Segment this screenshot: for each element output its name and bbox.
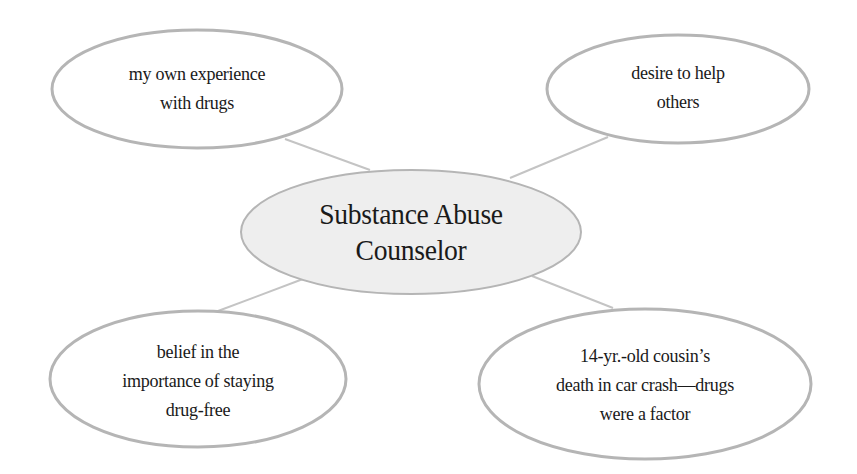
node-text-line: others: [657, 87, 699, 116]
node-text-line: desire to help: [631, 58, 724, 87]
node-text-line: belief in the: [157, 337, 240, 366]
concept-web-diagram: Substance Abuse Counselor my own experie…: [0, 0, 857, 474]
node-text-line: importance of staying: [122, 366, 273, 395]
node-bottom-left: belief in the importance of staying drug…: [122, 337, 273, 424]
node-text-line: 14-yr.-old cousin’s: [580, 341, 710, 370]
node-text-line: death in car crash—drugs: [556, 370, 734, 399]
node-text-line: were a factor: [600, 399, 690, 428]
node-text-line: with drugs: [160, 88, 234, 117]
connector-bottom-left: [218, 279, 303, 311]
node-top-right: desire to help others: [631, 58, 724, 116]
connector-bottom-right: [532, 276, 613, 308]
connector-top-right: [510, 137, 608, 178]
node-bottom-right: 14-yr.-old cousin’s death in car crash—d…: [556, 341, 734, 428]
center-topic: Substance Abuse Counselor: [319, 196, 503, 268]
node-top-left: my own experience with drugs: [129, 59, 265, 117]
node-text-line: drug-free: [166, 395, 231, 424]
connector-top-left: [285, 139, 370, 170]
center-topic-line: Substance Abuse: [319, 196, 503, 232]
node-text-line: my own experience: [129, 59, 265, 88]
center-topic-line: Counselor: [355, 232, 466, 268]
